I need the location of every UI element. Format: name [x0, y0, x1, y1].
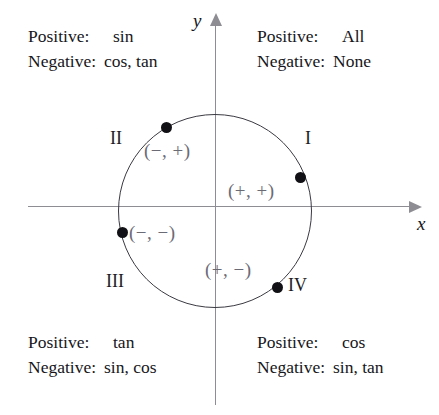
- point-quadrant-4: [272, 282, 283, 293]
- quadrant-2-positive-value: sin: [104, 24, 133, 49]
- quadrant-1-negative-label: Negative:: [257, 49, 333, 74]
- x-axis-label: x: [417, 213, 425, 235]
- quadrant-4-sign-pair: (+, −): [205, 259, 252, 281]
- quadrant-4-positive-label: Positive:: [257, 330, 333, 355]
- quadrant-3-positive-value: tan: [104, 330, 134, 355]
- quadrant-2-positive-label: Positive:: [28, 24, 104, 49]
- quadrant-1-roman-numeral: I: [305, 128, 311, 149]
- quadrant-1-positive-row: Positive: All: [257, 24, 371, 49]
- quadrant-1-positive-label: Positive:: [257, 24, 333, 49]
- x-axis-arrowhead-icon: [409, 201, 422, 213]
- quadrant-4-sign-summary: Positive: cos Negative: sin, tan: [257, 330, 384, 380]
- quadrant-3-sign-summary: Positive: tan Negative: sin, cos: [28, 330, 157, 380]
- trig-quadrant-diagram: Positive: sin Negative: cos, tan Positiv…: [0, 0, 439, 415]
- quadrant-1-sign-summary: Positive: All Negative: None: [257, 24, 371, 74]
- quadrant-3-negative-row: Negative: sin, cos: [28, 355, 157, 380]
- quadrant-3-negative-value: sin, cos: [104, 355, 157, 380]
- quadrant-1-negative-row: Negative: None: [257, 49, 371, 74]
- quadrant-1-positive-value: All: [333, 24, 364, 49]
- quadrant-1-sign-pair: (+, +): [228, 180, 275, 202]
- quadrant-2-roman-numeral: II: [110, 128, 122, 149]
- quadrant-4-negative-row: Negative: sin, tan: [257, 355, 384, 380]
- quadrant-3-sign-pair: (−, −): [129, 222, 176, 244]
- quadrant-4-negative-label: Negative:: [257, 355, 333, 380]
- quadrant-4-negative-value: sin, tan: [333, 355, 384, 380]
- point-quadrant-1: [295, 172, 306, 183]
- quadrant-3-positive-row: Positive: tan: [28, 330, 157, 355]
- quadrant-3-positive-label: Positive:: [28, 330, 104, 355]
- quadrant-2-negative-row: Negative: cos, tan: [28, 49, 157, 74]
- y-axis-arrowhead-icon: [210, 13, 222, 26]
- quadrant-2-sign-pair: (−, +): [144, 140, 191, 162]
- point-quadrant-3: [117, 227, 128, 238]
- quadrant-4-positive-value: cos: [333, 330, 365, 355]
- quadrant-4-roman-numeral: IV: [288, 275, 307, 296]
- quadrant-4-positive-row: Positive: cos: [257, 330, 384, 355]
- quadrant-3-negative-label: Negative:: [28, 355, 104, 380]
- quadrant-3-roman-numeral: III: [106, 271, 124, 292]
- y-axis-label: y: [193, 10, 201, 32]
- point-quadrant-2: [161, 122, 172, 133]
- quadrant-2-sign-summary: Positive: sin Negative: cos, tan: [28, 24, 157, 74]
- quadrant-2-positive-row: Positive: sin: [28, 24, 157, 49]
- quadrant-1-negative-value: None: [333, 49, 371, 74]
- quadrant-2-negative-value: cos, tan: [104, 49, 157, 74]
- quadrant-2-negative-label: Negative:: [28, 49, 104, 74]
